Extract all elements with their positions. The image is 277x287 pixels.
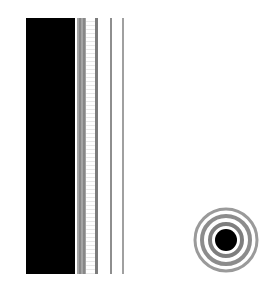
gray-stripe-2 [95, 18, 98, 274]
gray-stripe-3 [110, 18, 112, 274]
black-bar [26, 18, 75, 274]
gray-stripe-1 [77, 18, 86, 274]
gray-stripe-4 [122, 18, 124, 274]
concentric-target-icon [193, 207, 259, 273]
